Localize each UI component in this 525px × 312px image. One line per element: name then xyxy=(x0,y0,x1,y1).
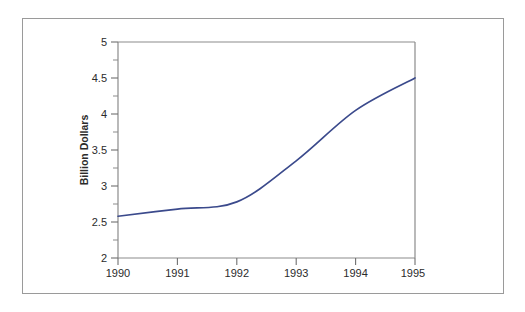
x-tick-label-1992: 1992 xyxy=(225,267,249,279)
chart-figure: 5 4.5 4 3.5 3 2.5 2 1990 1991 1992 1993 … xyxy=(0,0,525,312)
y-tick-label-3: 3 xyxy=(101,180,107,192)
y-tick-label-5: 5 xyxy=(101,36,107,48)
x-tick-label-1995: 1995 xyxy=(401,267,425,279)
x-tick-label-1993: 1993 xyxy=(284,267,308,279)
x-tick-label-1990: 1990 xyxy=(106,267,130,279)
y-tick-label-2-5: 2.5 xyxy=(92,216,107,228)
x-tick-label-1994: 1994 xyxy=(343,267,367,279)
y-tick-label-3-5: 3.5 xyxy=(92,144,107,156)
y-tick-label-4: 4 xyxy=(101,108,107,120)
x-major-ticks xyxy=(118,258,415,265)
line-chart: 5 4.5 4 3.5 3 2.5 2 1990 1991 1992 1993 … xyxy=(0,0,525,312)
y-axis-title: Billion Dollars xyxy=(78,115,90,186)
y-tick-label-2: 2 xyxy=(101,252,107,264)
y-tick-label-4-5: 4.5 xyxy=(92,72,107,84)
axis-lines xyxy=(118,42,415,258)
y-major-ticks xyxy=(111,42,118,258)
x-tick-label-1991: 1991 xyxy=(165,267,189,279)
data-series-line xyxy=(118,78,415,216)
